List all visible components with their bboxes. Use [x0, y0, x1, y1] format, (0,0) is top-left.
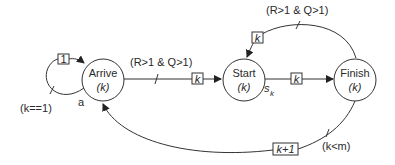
- token-finish-start: k: [255, 32, 261, 44]
- node-arrive: Arrive (k): [82, 59, 124, 101]
- node-finish: Finish (k): [334, 59, 376, 101]
- node-arrive-param: (k): [97, 81, 110, 93]
- edge-arrive-start: [124, 74, 221, 84]
- node-start-param: (k): [238, 81, 251, 93]
- edge-finish-arrive: [103, 101, 355, 153]
- node-start: Start (k): [223, 59, 265, 101]
- token-finish-arrive: k+1: [276, 143, 294, 155]
- token-start-finish: k: [294, 73, 300, 85]
- node-start-label: Start: [232, 67, 255, 79]
- node-finish-param: (k): [349, 81, 362, 93]
- token-arrive-start: k: [195, 73, 201, 85]
- state-diagram: 1 (k==1) a k (R>1 & Q>1) k s k k (R>1 & …: [0, 0, 395, 165]
- condition-self-loop: (k==1): [20, 102, 52, 114]
- node-finish-label: Finish: [340, 67, 369, 79]
- condition-finish-start: (R>1 & Q>1): [266, 4, 328, 16]
- annotation-subscript: k: [270, 89, 275, 98]
- condition-arrive-start: (R>1 & Q>1): [130, 56, 192, 68]
- annotation-self-loop: a: [78, 96, 85, 108]
- guard-tick: [326, 129, 329, 137]
- condition-finish-arrive: (k<m): [322, 140, 350, 152]
- node-arrive-label: Arrive: [89, 67, 118, 79]
- token-self-loop: 1: [60, 53, 66, 65]
